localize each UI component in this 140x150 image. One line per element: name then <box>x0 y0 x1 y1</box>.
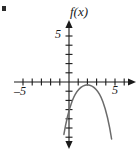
y-axis-arrowhead-down-icon <box>65 141 72 149</box>
x-axis-arrowhead-icon <box>128 78 136 85</box>
y-axis-tick-label-5: 5 <box>55 28 61 40</box>
graph-figure: f(x) 5 –5 5 <box>0 0 140 150</box>
parabola-curve <box>64 85 112 139</box>
x-axis-tick-label-negative-5: –5 <box>14 85 26 97</box>
coordinate-plane <box>0 0 140 150</box>
y-axis-arrowhead-icon <box>65 20 72 28</box>
x-axis-tick-label-5: 5 <box>112 84 118 96</box>
function-label: f(x) <box>70 5 88 18</box>
